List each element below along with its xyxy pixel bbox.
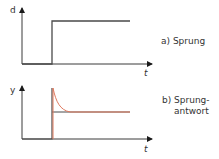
y-axis-label-a: d (10, 5, 16, 15)
x-axis-label-b: t (144, 144, 148, 154)
step-function-line (22, 21, 130, 64)
caption-b-line2: antwort (174, 106, 209, 116)
steady-step-line (22, 88, 130, 139)
response-curve (53, 88, 130, 139)
y-axis-label-b: y (10, 85, 15, 95)
diagram-a-step (22, 8, 152, 64)
step-response-diagram (0, 0, 219, 159)
diagram-b-step-response (22, 86, 152, 139)
x-axis-label-a: t (144, 68, 148, 78)
caption-a: a) Sprung (161, 36, 205, 46)
caption-b-line1: b) Sprung- (162, 95, 210, 105)
